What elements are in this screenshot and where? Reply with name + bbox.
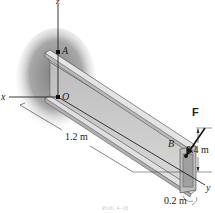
y-axis-label: y (206, 183, 210, 193)
point-o-label: O (62, 92, 69, 102)
point-a-label: A (62, 46, 68, 56)
x-axis-label: x (1, 92, 5, 102)
point-o-marker (56, 95, 60, 99)
length-label: 1.2 m (65, 132, 88, 142)
point-b-label: B (168, 139, 174, 149)
point-a-marker (56, 50, 60, 54)
beam-diagram: z x y A O B F 1.2 m 0.4 m 0.2 m Prob. 4–… (0, 0, 215, 213)
z-axis-label: z (56, 0, 60, 6)
force-label: F (192, 107, 199, 118)
figure-caption: Prob. 4–16 (102, 205, 128, 211)
width-label: 0.2 m (164, 196, 187, 206)
diagram-canvas (0, 0, 215, 213)
height-label: 0.4 m (186, 145, 209, 155)
